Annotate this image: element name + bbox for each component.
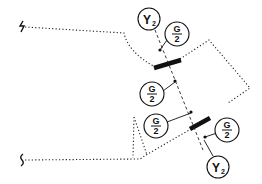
leader-g2-lower-left: [167, 113, 191, 122]
lower-outline: [25, 118, 210, 160]
break-symbol-bottom: [21, 154, 24, 166]
svg-text:2: 2: [224, 130, 229, 140]
svg-text:Y: Y: [143, 13, 151, 27]
label-g2-lower-right: G 2: [215, 118, 239, 142]
label-g2-top: G 2: [165, 22, 189, 46]
label-y2-top: Y 2: [138, 8, 160, 30]
label-y2-bottom: Y 2: [207, 156, 229, 178]
svg-text:2: 2: [221, 168, 225, 175]
svg-text:2: 2: [174, 34, 179, 44]
break-symbol-top: [20, 21, 24, 32]
leader-y2-bottom: [204, 140, 213, 156]
node-lower-left: [189, 110, 192, 113]
svg-text:2: 2: [153, 126, 158, 136]
label-g2-lower-left: G 2: [144, 114, 168, 138]
node-top: [158, 48, 161, 51]
svg-text:G: G: [223, 120, 230, 130]
leader-g2-mid: [163, 82, 175, 91]
upper-outline: [25, 27, 155, 67]
structural-diagram: Y 2 G 2 G 2 G 2 G 2 Y 2: [0, 0, 262, 184]
node-mid: [173, 79, 176, 82]
svg-text:G: G: [173, 24, 180, 34]
svg-text:G: G: [152, 116, 159, 126]
lower-plate: [190, 118, 210, 129]
label-g2-mid: G 2: [140, 82, 164, 106]
leader-g2-top: [160, 40, 167, 50]
svg-text:Y: Y: [212, 161, 220, 175]
svg-text:G: G: [148, 84, 155, 94]
node-lower-right: [203, 135, 206, 138]
svg-text:2: 2: [152, 20, 156, 27]
svg-text:2: 2: [149, 94, 154, 104]
right-outline: [180, 40, 250, 103]
